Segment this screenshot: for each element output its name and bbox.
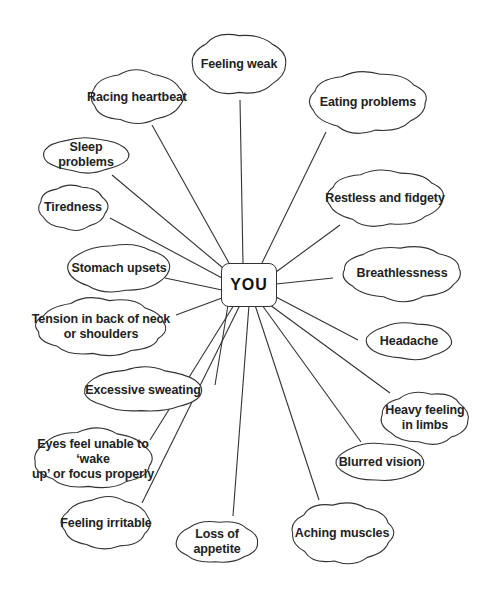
cloud-label: Aching muscles xyxy=(295,526,389,541)
mind-map-diagram: Feeling weakRacing heartbeatEating probl… xyxy=(0,0,503,598)
connector-breathlessness xyxy=(276,278,333,284)
cloud-label: Stomach upsets xyxy=(71,261,166,276)
cloud-eating-problems: Eating problems xyxy=(300,66,436,138)
cloud-label: Tiredness xyxy=(44,200,102,215)
cloud-label: Racing heartbeat xyxy=(87,90,187,105)
cloud-blurred-vision: Blurred vision xyxy=(327,438,433,486)
center-node-you: YOU xyxy=(221,263,277,307)
connector-feeling-weak xyxy=(240,100,243,263)
cloud-excessive-sweating: Excessive sweating xyxy=(73,363,213,417)
cloud-racing-heartbeat: Racing heartbeat xyxy=(82,66,192,128)
cloud-label: Sleep problems xyxy=(58,140,113,170)
cloud-restless-fidgety: Restless and fidgety xyxy=(317,165,453,231)
cloud-feeling-weak: Feeling weak xyxy=(183,28,295,100)
cloud-tiredness: Tiredness xyxy=(32,180,114,235)
cloud-eyes-focus: Eyes feel unable to ‘wake up’ or focus p… xyxy=(24,424,162,494)
connector-loss-appetite xyxy=(233,305,249,516)
cloud-label: Headache xyxy=(380,334,438,349)
cloud-label: Restless and fidgety xyxy=(325,191,445,206)
cloud-stomach-upsets: Stomach upsets xyxy=(58,239,180,297)
cloud-label: Tension in back of neck or shoulders xyxy=(32,312,170,342)
cloud-label: Breathlessness xyxy=(356,266,447,281)
cloud-label: Heavy feeling in limbs xyxy=(385,403,464,433)
connector-restless-fidgety xyxy=(276,225,340,272)
cloud-feeling-irritable: Feeling irritable xyxy=(54,492,158,554)
cloud-label: Feeling weak xyxy=(201,57,278,72)
cloud-breathlessness: Breathlessness xyxy=(333,241,471,305)
cloud-label: Eyes feel unable to ‘wake up’ or focus p… xyxy=(24,437,162,482)
cloud-label: Eating problems xyxy=(320,95,416,110)
cloud-label: Excessive sweating xyxy=(85,383,201,398)
cloud-loss-appetite: Loss of appetite xyxy=(168,516,266,568)
cloud-tension-neck: Tension in back of neck or shoulders xyxy=(26,293,176,361)
cloud-label: Feeling irritable xyxy=(60,516,151,531)
cloud-headache: Headache xyxy=(357,318,461,364)
connector-blurred-vision xyxy=(262,305,361,442)
cloud-label: Loss of appetite xyxy=(193,527,240,557)
cloud-sleep-problems: Sleep problems xyxy=(34,133,138,177)
cloud-aching-muscles: Aching muscles xyxy=(283,497,401,569)
connector-tension-neck xyxy=(176,298,222,315)
cloud-label: Blurred vision xyxy=(339,455,422,470)
